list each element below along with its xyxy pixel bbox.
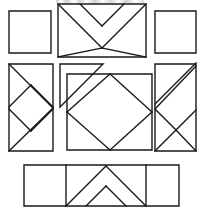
- diagram-background: [0, 0, 203, 212]
- diagram-canvas: [0, 0, 203, 212]
- quilt-block-diagram: [0, 0, 203, 212]
